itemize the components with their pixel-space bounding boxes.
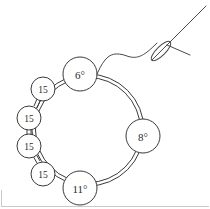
bead-small-3: 15 — [17, 134, 41, 158]
bead-small-1-label: 15 — [38, 85, 48, 95]
bead-small-4: 15 — [31, 162, 55, 186]
thread-strand — [97, 43, 157, 74]
bead-small-2: 15 — [17, 106, 41, 130]
sewing-needle — [149, 6, 206, 63]
connector-1-2-b — [37, 101, 40, 108]
bead-small-1: 15 — [31, 77, 55, 101]
beaded-ring-figure: 6° 8° 11° 15 15 15 — [0, 0, 210, 209]
bead-top: 6° — [63, 57, 97, 91]
needle-tail — [167, 45, 190, 55]
bead-top-label: 6° — [75, 69, 85, 81]
bead-right: 8° — [126, 119, 160, 153]
connector-1-2-a — [34, 99, 37, 106]
bead-small-2-label: 15 — [24, 114, 34, 124]
needle-shaft — [152, 6, 206, 60]
frame-edges — [1, 190, 209, 207]
bead-bottom: 11° — [63, 171, 97, 205]
bead-bottom-label: 11° — [73, 183, 88, 195]
figure-canvas: 6° 8° 11° 15 15 15 — [0, 0, 210, 209]
bead-small-4-label: 15 — [38, 170, 48, 180]
bead-group: 6° 8° 11° 15 15 15 — [17, 57, 160, 205]
bead-right-label: 8° — [138, 131, 148, 143]
bead-small-3-label: 15 — [24, 142, 34, 152]
